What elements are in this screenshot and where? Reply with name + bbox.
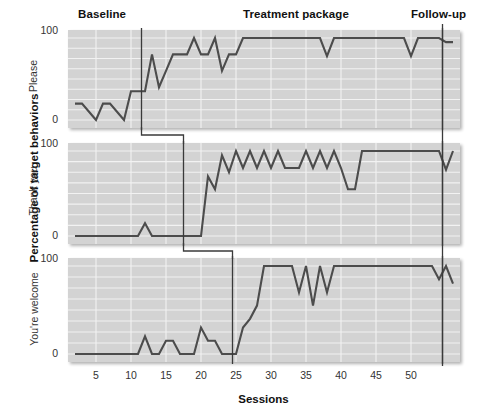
- phase-change-connectors: [0, 0, 483, 414]
- x-tick-40: 40: [330, 369, 352, 381]
- x-tick-15: 15: [155, 369, 177, 381]
- multiple-baseline-figure: Baseline Treatment package Follow-up Per…: [0, 0, 483, 414]
- x-tick-20: 20: [190, 369, 212, 381]
- x-tick-5: 5: [85, 369, 107, 381]
- x-tick-25: 25: [225, 369, 247, 381]
- x-tick-50: 50: [400, 369, 422, 381]
- x-tick-30: 30: [260, 369, 282, 381]
- x-tick-10: 10: [120, 369, 142, 381]
- x-axis-title: Sessions: [0, 393, 483, 405]
- x-tick-45: 45: [365, 369, 387, 381]
- x-axis-title-text: Sessions: [238, 393, 289, 405]
- x-tick-35: 35: [295, 369, 317, 381]
